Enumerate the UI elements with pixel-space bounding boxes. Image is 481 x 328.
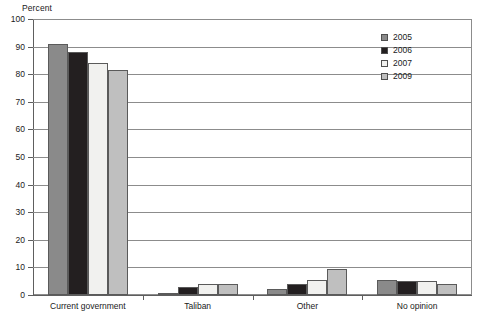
bar bbox=[108, 70, 128, 295]
bar bbox=[198, 284, 218, 295]
y-axis-tick bbox=[28, 267, 33, 268]
legend-item: 2007 bbox=[381, 57, 441, 70]
legend-item-label: 2006 bbox=[393, 46, 412, 55]
y-axis-tick-label: 30 bbox=[1, 208, 25, 217]
y-axis-tick-label: 90 bbox=[1, 43, 25, 52]
bar bbox=[218, 284, 238, 295]
bar bbox=[377, 280, 397, 295]
y-axis-tick bbox=[28, 47, 33, 48]
bar bbox=[48, 44, 68, 295]
y-axis-tick bbox=[28, 240, 33, 241]
bar-chart: Percent 0102030405060708090100 Current g… bbox=[0, 0, 481, 328]
y-axis-tick bbox=[28, 157, 33, 158]
y-axis-tick bbox=[28, 295, 33, 296]
legend-swatch-icon bbox=[381, 47, 388, 54]
bar bbox=[437, 284, 457, 295]
legend-item-label: 2009 bbox=[393, 72, 412, 81]
y-axis-tick-label: 80 bbox=[1, 70, 25, 79]
bar bbox=[327, 269, 347, 295]
x-axis-tick bbox=[253, 295, 254, 300]
x-axis-category-label: Current government bbox=[33, 302, 143, 311]
x-axis-category-label: Other bbox=[253, 302, 363, 311]
y-axis-tick-label: 10 bbox=[1, 263, 25, 272]
y-axis-tick bbox=[28, 129, 33, 130]
legend-swatch-icon bbox=[381, 73, 388, 80]
legend-swatch-icon bbox=[381, 60, 388, 67]
x-axis-tick bbox=[143, 295, 144, 300]
y-axis-tick-label: 0 bbox=[1, 291, 25, 300]
y-axis-tick-label: 70 bbox=[1, 98, 25, 107]
legend-swatch-icon bbox=[381, 34, 388, 41]
legend-item-label: 2007 bbox=[393, 59, 412, 68]
x-axis-tick bbox=[362, 295, 363, 300]
gridline bbox=[33, 19, 472, 20]
x-axis-category-label: No opinion bbox=[362, 302, 472, 311]
y-axis-tick bbox=[28, 102, 33, 103]
bar bbox=[397, 281, 417, 295]
legend-item: 2009 bbox=[381, 70, 441, 83]
bar bbox=[68, 52, 88, 295]
bar bbox=[88, 63, 108, 295]
bar bbox=[267, 289, 287, 295]
legend-item: 2005 bbox=[381, 31, 441, 44]
y-axis-title: Percent bbox=[22, 3, 52, 13]
bar bbox=[307, 280, 327, 295]
y-axis-tick-label: 20 bbox=[1, 236, 25, 245]
y-axis-tick-label: 100 bbox=[1, 15, 25, 24]
y-axis-tick bbox=[28, 74, 33, 75]
y-axis-tick-label: 40 bbox=[1, 181, 25, 190]
bar bbox=[178, 287, 198, 295]
y-axis-tick bbox=[28, 212, 33, 213]
bar bbox=[158, 293, 178, 295]
legend: 2005200620072009 bbox=[381, 31, 441, 83]
y-axis-tick bbox=[28, 19, 33, 20]
legend-item: 2006 bbox=[381, 44, 441, 57]
bar bbox=[287, 284, 307, 295]
y-axis-tick-label: 60 bbox=[1, 125, 25, 134]
y-axis-tick bbox=[28, 185, 33, 186]
bar bbox=[417, 281, 437, 295]
x-axis-category-label: Taliban bbox=[143, 302, 253, 311]
legend-item-label: 2005 bbox=[393, 33, 412, 42]
y-axis-tick-label: 50 bbox=[1, 153, 25, 162]
